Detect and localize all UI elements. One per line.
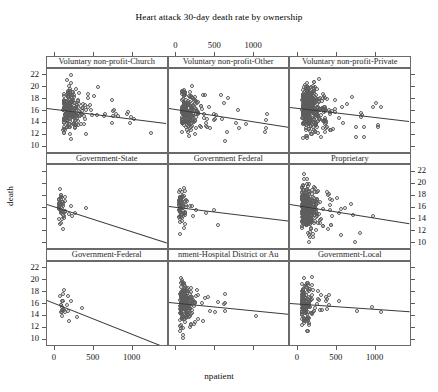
data-point (305, 134, 309, 138)
data-point (312, 221, 316, 225)
data-point (180, 130, 184, 134)
y-tick-stub (411, 86, 415, 87)
data-point (343, 206, 347, 210)
x-tick-bottom-col0 (93, 346, 94, 350)
data-point (335, 196, 339, 200)
data-point (179, 285, 183, 289)
data-point (337, 299, 341, 303)
data-point (319, 135, 323, 139)
data-point (200, 301, 204, 305)
y-tick-row0 (42, 86, 46, 87)
y-tick-stub (42, 242, 46, 243)
data-point (67, 319, 71, 323)
y-tick-row0 (42, 110, 46, 111)
data-point (318, 308, 322, 312)
data-point (306, 209, 310, 213)
data-point (307, 182, 311, 186)
data-point (88, 103, 92, 107)
data-point (192, 322, 196, 326)
data-point (358, 231, 362, 235)
data-point (300, 282, 304, 286)
data-point (65, 78, 69, 82)
scatter-panel[interactable] (289, 261, 411, 346)
data-point (77, 91, 81, 95)
data-point (183, 320, 187, 324)
data-point (183, 189, 187, 193)
x-tick-label-bottom-col0: 1000 (120, 352, 144, 362)
y-tick-row0 (42, 122, 46, 123)
data-point (178, 232, 182, 236)
y-tick-label-row0: 14 (18, 116, 39, 126)
x-tick-label-top: 500 (202, 40, 226, 50)
data-point (254, 314, 258, 318)
scatter-panel[interactable] (168, 164, 290, 249)
data-point (220, 117, 224, 121)
data-point (302, 177, 306, 181)
data-point (300, 296, 304, 300)
y-tick-row2 (42, 267, 46, 268)
data-point (60, 314, 64, 318)
data-point (226, 96, 230, 100)
scatter-panel[interactable] (46, 261, 168, 346)
data-point (329, 223, 333, 227)
data-point (187, 134, 191, 138)
data-point (310, 275, 314, 279)
scatter-panel[interactable] (46, 68, 168, 153)
data-point (302, 276, 306, 280)
y-tick-row1 (411, 230, 415, 231)
scatter-panel[interactable] (289, 68, 411, 153)
data-point (193, 102, 197, 106)
data-point (223, 292, 227, 296)
y-tick-row2 (42, 291, 46, 292)
x-tick-label-bottom-col2: 1000 (363, 352, 387, 362)
y-tick-label-row0: 20 (18, 81, 39, 91)
data-point (371, 105, 375, 109)
data-point (300, 323, 304, 327)
data-point (126, 110, 130, 114)
y-tick-row2 (42, 303, 46, 304)
scatter-panel[interactable] (46, 164, 168, 249)
data-point (301, 184, 305, 188)
data-point (184, 198, 188, 202)
data-point (82, 122, 86, 126)
data-point (305, 290, 309, 294)
y-tick-row0 (42, 134, 46, 135)
data-point (80, 306, 84, 310)
data-point (80, 106, 84, 110)
data-point (76, 98, 80, 102)
data-point (321, 126, 325, 130)
y-tick-stub (42, 183, 46, 184)
x-tick-label-top: 1000 (241, 40, 265, 50)
data-point (75, 113, 79, 117)
data-point (313, 130, 317, 134)
y-tick-row1 (411, 171, 415, 172)
data-point (194, 126, 198, 130)
data-point (307, 119, 311, 123)
data-point (189, 290, 193, 294)
y-tick-stub (411, 327, 415, 328)
x-tick-stub (214, 346, 215, 350)
data-point (339, 233, 343, 237)
data-point (325, 97, 329, 101)
data-point (193, 132, 197, 136)
data-point (62, 105, 66, 109)
data-point (191, 214, 195, 218)
data-point (179, 201, 183, 205)
scatter-panel[interactable] (168, 261, 290, 346)
data-point (68, 122, 72, 126)
data-point (265, 112, 269, 116)
y-tick-label-row0: 22 (18, 69, 39, 79)
panel-strip-label: Government-Local (289, 249, 411, 261)
data-point (307, 240, 311, 244)
scatter-panel[interactable] (168, 68, 290, 153)
y-tick-stub (411, 279, 415, 280)
panel-strip-label: nment-Hospital District or Au (168, 249, 290, 261)
y-tick-row0 (42, 146, 46, 147)
y-tick-row1 (411, 207, 415, 208)
data-point (62, 131, 66, 135)
y-tick-row2 (42, 327, 46, 328)
data-point (184, 115, 188, 119)
data-point (311, 288, 315, 292)
scatter-panel[interactable] (289, 164, 411, 249)
x-tick-stub (297, 52, 298, 56)
